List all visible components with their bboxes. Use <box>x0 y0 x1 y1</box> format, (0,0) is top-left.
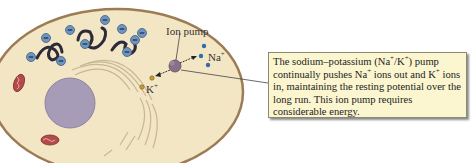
nucleus <box>45 78 95 128</box>
ion-pump-label: Ion pump <box>166 25 208 37</box>
mitochondrion-icon <box>41 135 59 145</box>
callout-box: The sodium–potassium (Na+/K+) pump conti… <box>268 52 467 118</box>
callout-text: ions out and K <box>371 69 436 80</box>
callout-text: The sodium–potassium (Na <box>273 56 390 67</box>
potassium-ion-label: K+ <box>146 82 158 95</box>
potassium-charge: + <box>154 82 158 90</box>
sodium-charge: + <box>221 50 225 58</box>
sodium-symbol: Na <box>208 51 221 63</box>
potassium-symbol: K <box>146 83 154 95</box>
sodium-ion-label: Na+ <box>208 50 225 63</box>
ion-pump-icon <box>169 60 181 72</box>
callout-text: /K <box>394 56 405 67</box>
